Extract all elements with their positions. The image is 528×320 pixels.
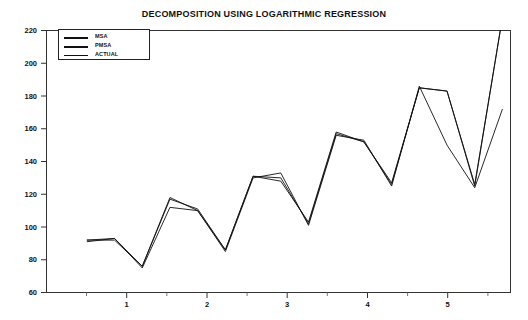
x-axis-labels: 1 2 3 4 5 — [125, 300, 450, 309]
x-tick-label: 1 — [125, 300, 129, 309]
y-tick-label: 160 — [24, 124, 37, 133]
y-tick-label: 100 — [24, 223, 37, 232]
legend-item-msa: MSA — [59, 33, 151, 42]
y-tick-label: 180 — [24, 92, 37, 101]
chart-screenshot: DECOMPOSITION USING LOGARITHMIC REGRESSI… — [0, 0, 528, 320]
y-tick-label: 140 — [24, 157, 37, 166]
x-tick-label: 5 — [446, 300, 450, 309]
y-tick-label: 80 — [29, 255, 37, 264]
x-axis-ticks — [87, 293, 488, 299]
x-tick-label: 2 — [205, 300, 209, 309]
legend-label: MSA — [95, 33, 108, 39]
legend-swatch-icon — [64, 37, 88, 39]
series-line-pmsa — [87, 86, 503, 268]
y-tick-label: 200 — [24, 59, 37, 68]
y-axis-labels: 220 200 180 160 140 120 100 80 60 — [24, 26, 37, 297]
x-tick-label: 4 — [365, 300, 370, 309]
legend-label: ACTUAL — [95, 51, 118, 57]
x-tick-label: 3 — [285, 300, 289, 309]
y-tick-label: 220 — [24, 26, 37, 35]
legend-swatch-icon — [64, 46, 88, 48]
y-tick-label: 120 — [24, 190, 37, 199]
plot-frame — [47, 31, 511, 293]
legend-swatch-icon — [64, 55, 88, 56]
legend-item-actual: ACTUAL — [59, 51, 151, 60]
y-axis-ticks — [41, 31, 47, 293]
chart-legend: MSA PMSA ACTUAL — [58, 29, 150, 60]
legend-item-pmsa: PMSA — [59, 42, 151, 51]
legend-label: PMSA — [95, 42, 111, 48]
y-tick-label: 60 — [29, 288, 37, 297]
